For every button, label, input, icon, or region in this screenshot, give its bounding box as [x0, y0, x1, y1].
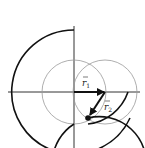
label-r2: r2: [104, 102, 112, 113]
spiral-outer-arc: [12, 30, 130, 148]
label-r1: r1: [82, 78, 90, 89]
spiral-vector-diagram: r1 r2: [0, 0, 145, 148]
point-marker: [85, 115, 91, 121]
vector-r2: [90, 92, 105, 115]
